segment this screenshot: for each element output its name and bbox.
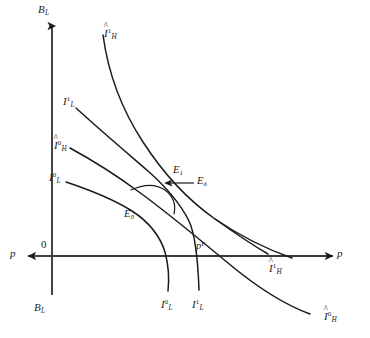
curve-I-hat-H-1 bbox=[103, 35, 292, 258]
point-label-E1: E1 bbox=[173, 165, 183, 177]
curve-I-L-1 bbox=[76, 108, 199, 290]
axis-label-horizontal-left: p bbox=[10, 248, 16, 259]
curve-label-I-hat-H-1-upper: I1H bbox=[104, 28, 117, 41]
curve-label-I-hat-H-0-right: I0H bbox=[324, 311, 337, 324]
curve-label-I-L-0-lower: I0L bbox=[161, 299, 173, 312]
curve-label-I-L-1-lower: I1L bbox=[192, 299, 204, 312]
curve-label-I-L-1-upper: I1L bbox=[63, 96, 75, 109]
point-label-E-delta: Eδ bbox=[197, 176, 207, 188]
origin-label: 0 bbox=[41, 239, 47, 250]
curve-I-L-0 bbox=[66, 182, 169, 291]
point-label-E0: E0 bbox=[124, 209, 134, 221]
indifference-curve-figure: BL BL p p 0 I1H I1L I0H I0L I0L I1L I1H … bbox=[0, 0, 370, 338]
curve-label-I-hat-H-0-upper: I0H bbox=[54, 140, 67, 153]
curve-label-I-hat-H-1-right: I1H bbox=[269, 263, 282, 276]
figure-canvas bbox=[0, 0, 370, 338]
axes-group bbox=[28, 26, 333, 295]
curve-delta-arc bbox=[131, 186, 175, 215]
point-label-pF: pF bbox=[196, 241, 205, 252]
axis-label-vertical-bottom: BL bbox=[34, 302, 45, 315]
curve-label-I-L-0-upper: I0L bbox=[49, 172, 61, 185]
edelta-pointer-group bbox=[164, 180, 194, 187]
axis-label-vertical-top: BL bbox=[38, 4, 49, 17]
curve-I-hat-H-1-right-tail bbox=[215, 219, 268, 254]
axis-label-horizontal-right: p bbox=[337, 248, 343, 259]
curve-I-hat-H-0 bbox=[70, 148, 310, 314]
